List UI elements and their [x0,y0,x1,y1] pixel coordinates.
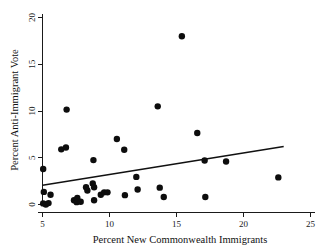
plot-canvas: 20 15 10 5 0 Percent Anti-Immigrant Vote… [0,0,332,250]
x-tick-label-20: 20 [239,219,249,229]
data-point [114,136,120,142]
data-point [155,103,161,109]
y-tick-label-0: 0 [27,202,37,207]
regression-line-layer [43,147,284,186]
data-point [179,33,185,39]
y-tick-label-15: 15 [27,59,37,69]
scatter-plot-figure: 20 15 10 5 0 Percent Anti-Immigrant Vote… [0,0,332,250]
data-point [40,166,46,172]
data-point [133,174,139,180]
y-tick-label-5: 5 [27,155,37,160]
x-axis-title: Percent New Commonwealth Immigrants [93,234,268,245]
data-point [45,200,51,206]
regression-line [43,147,284,186]
data-point [223,158,229,164]
data-point [84,187,90,193]
y-axis-ticks [38,18,43,205]
data-point [90,157,96,163]
data-point [91,197,97,203]
x-tick-label-10: 10 [105,219,115,229]
data-point [161,194,167,200]
x-tick-label-25: 25 [306,219,316,229]
x-tick-label-15: 15 [172,219,182,229]
data-point [91,184,97,190]
data-points-layer [40,33,282,208]
data-point [122,192,128,198]
data-point [63,144,69,150]
y-axis-tick-labels: 20 15 10 5 0 [27,13,37,207]
x-axis-tick-labels: 5 10 15 20 25 [40,219,315,229]
y-axis-group: 20 15 10 5 0 Percent Anti-Immigrant Vote [9,13,42,207]
x-axis-group: 5 10 15 20 25 Percent New Commonwealth I… [38,213,316,246]
x-axis-ticks [43,213,311,218]
y-axis-title: Percent Anti-Immigrant Vote [9,49,20,171]
data-point [157,184,163,190]
data-point [47,191,53,197]
y-tick-label-20: 20 [27,13,37,23]
data-point [121,147,127,153]
data-point [194,130,200,136]
data-point [275,174,281,180]
y-tick-label-10: 10 [27,106,37,116]
data-point [202,194,208,200]
data-point [134,186,140,192]
x-tick-label-5: 5 [40,219,45,229]
data-point [41,189,47,195]
data-point [63,106,69,112]
data-point [104,189,110,195]
data-point [77,198,83,204]
